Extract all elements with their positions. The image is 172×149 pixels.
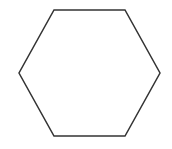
diagram-canvas [0,0,172,149]
hexagon-figure [0,0,172,149]
hexagon-shape [19,10,160,136]
